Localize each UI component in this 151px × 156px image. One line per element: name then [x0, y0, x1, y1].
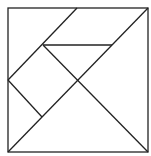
tangram-diagram	[0, 0, 151, 156]
tangram-edge-4	[8, 80, 42, 117]
tangram-edge-3	[43, 45, 148, 152]
